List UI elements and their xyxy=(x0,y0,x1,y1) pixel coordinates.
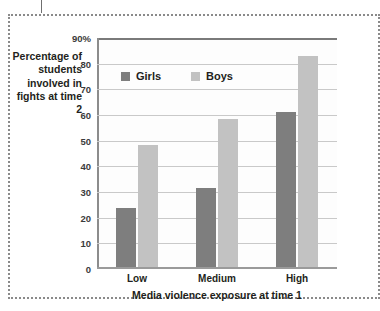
bar-girls-high xyxy=(276,112,296,267)
x-tick-label: Low xyxy=(127,273,147,284)
page-gutter-tick xyxy=(41,0,42,13)
bar-girls-medium xyxy=(196,188,216,267)
bar-group xyxy=(257,38,337,267)
y-tick-label: 80 xyxy=(80,58,91,69)
plot-area: Girls Boys xyxy=(97,38,337,269)
x-tick-label: High xyxy=(286,273,308,284)
x-axis-tick-labels: LowMediumHigh xyxy=(97,273,337,287)
legend-item-boys: Boys xyxy=(191,70,233,82)
bar-boys-high xyxy=(298,56,318,267)
legend-label-girls: Girls xyxy=(136,70,161,82)
bar-girls-low xyxy=(116,208,136,267)
legend-label-boys: Boys xyxy=(206,70,233,82)
y-tick-label: 60 xyxy=(80,110,91,121)
legend-swatch-girls xyxy=(121,72,130,81)
x-tick-label: Medium xyxy=(198,273,236,284)
y-tick-label: 0 xyxy=(86,264,91,275)
bar-boys-low xyxy=(138,145,158,267)
y-tick-label: 30 xyxy=(80,187,91,198)
x-axis-line xyxy=(97,267,337,270)
bar-boys-medium xyxy=(218,119,238,267)
y-tick-label: 20 xyxy=(80,212,91,223)
bar-chart: Percentage of students involved in fight… xyxy=(0,14,331,299)
y-tick-label: 90% xyxy=(72,33,91,44)
chart-legend: Girls Boys xyxy=(121,70,233,82)
y-tick-label: 50 xyxy=(80,135,91,146)
legend-item-girls: Girls xyxy=(121,70,161,82)
y-tick-label: 40 xyxy=(80,161,91,172)
legend-swatch-boys xyxy=(191,72,200,81)
x-axis-title: Media violence exposure at time 1 xyxy=(97,289,337,301)
y-axis-tick-labels: 0102030405060708090% xyxy=(60,38,94,269)
y-tick-label: 70 xyxy=(80,84,91,95)
y-tick-label: 10 xyxy=(80,238,91,249)
